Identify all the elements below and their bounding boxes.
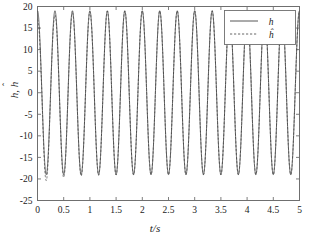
y-tick-label: 20 [23,2,33,12]
x-tick-label: 0.5 [58,205,70,215]
y-tick-label: -15 [20,153,33,163]
x-tick-label: 2.5 [163,205,175,215]
x-tick-label: 1 [88,205,93,215]
y-axis-title-h: h [8,93,20,99]
y-tick-label: -25 [20,196,33,206]
y-axis-title: h, ̂h [8,60,20,120]
y-tick-label: 15 [23,23,33,33]
x-tick-label: 4 [245,205,250,215]
hat-accent-icon: ̂ [2,82,12,88]
y-axis-tick-labels: -25-20-15-10-505101520 [20,2,33,206]
x-axis-title: t/s [0,222,310,234]
legend-box [225,11,296,45]
x-tick-label: 5 [297,205,302,215]
x-tick-label: 1.5 [110,205,122,215]
y-tick-label: 10 [23,45,33,55]
y-tick-label: -10 [20,131,33,141]
legend-label-h: h [269,17,274,27]
legend: h ĥ [225,11,296,45]
y-axis-title-separator: , [8,87,20,93]
chart-canvas: 00.511.522.533.544.55 -25-20-15-10-50510… [0,0,310,241]
legend-label-h-hat: ĥ [269,28,274,40]
y-tick-label: -20 [20,174,33,184]
x-axis-tick-labels: 00.511.522.533.544.55 [35,205,302,215]
x-tick-label: 3 [192,205,197,215]
y-tick-label: 0 [28,88,33,98]
y-axis-title-h-hat: ̂h [8,82,20,88]
y-tick-label: 5 [28,66,33,76]
figure-chart: 00.511.522.533.544.55 -25-20-15-10-50510… [0,0,310,241]
y-tick-label: -5 [25,110,33,120]
x-tick-label: 3.5 [215,205,227,215]
x-tick-label: 0 [35,205,40,215]
x-tick-label: 4.5 [267,205,279,215]
x-tick-label: 2 [140,205,145,215]
